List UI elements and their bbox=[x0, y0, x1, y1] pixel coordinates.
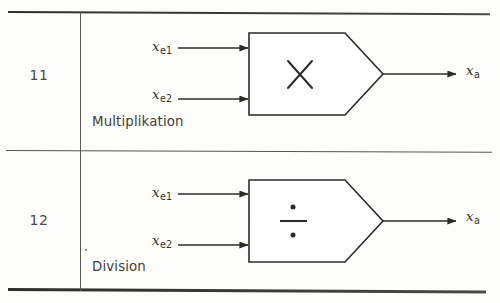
output-base-row2: x bbox=[466, 208, 474, 224]
output-subscript-row2: a bbox=[474, 215, 480, 226]
row-caption-division: Division bbox=[92, 258, 146, 274]
input-subscript-row1-1: e1 bbox=[160, 45, 172, 56]
input-subscript-row1-2: e2 bbox=[160, 93, 172, 104]
input-subscript-row2-2: e2 bbox=[160, 239, 172, 250]
pentagon-block-row2 bbox=[249, 180, 383, 262]
division-obelus-icon bbox=[280, 205, 307, 238]
input-base-row1-1: x bbox=[152, 38, 160, 54]
input-label-row2-2: xe2 bbox=[152, 234, 172, 250]
symbol-table-page: 11 12 Multiplikation Division xe1 xe2 xa… bbox=[0, 0, 500, 303]
input-label-row1-1: xe1 bbox=[152, 40, 172, 56]
input-label-row2-1: xe1 bbox=[152, 186, 172, 202]
output-label-row1: xa bbox=[466, 64, 480, 80]
block-division bbox=[178, 180, 456, 262]
input-subscript-row2-1: e1 bbox=[160, 191, 172, 202]
row-number-12: 12 bbox=[2, 212, 76, 228]
input-label-row1-2: xe2 bbox=[152, 88, 172, 104]
output-label-row2: xa bbox=[466, 210, 480, 226]
output-subscript-row1: a bbox=[474, 69, 480, 80]
pentagon-block-row1 bbox=[249, 33, 383, 115]
row-number-11: 11 bbox=[2, 67, 76, 83]
input-base-row1-2: x bbox=[152, 86, 160, 102]
input-base-row2-1: x bbox=[152, 184, 160, 200]
row-caption-multiplikation: Multiplikation bbox=[92, 113, 184, 129]
table-column-divider bbox=[80, 12, 81, 291]
block-multiplikation bbox=[178, 33, 456, 115]
table-row-divider bbox=[6, 150, 492, 153]
input-base-row2-2: x bbox=[152, 232, 160, 248]
scan-speck-artifact bbox=[85, 249, 87, 251]
output-base-row1: x bbox=[466, 62, 474, 78]
multiplication-cross-icon bbox=[288, 61, 312, 88]
